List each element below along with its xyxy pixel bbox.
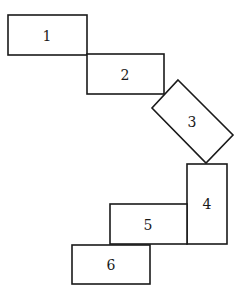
box-2: 2 — [87, 54, 164, 94]
box-3-label: 3 — [188, 114, 197, 130]
box-2-label: 2 — [121, 67, 130, 83]
box-1-label: 1 — [43, 28, 52, 44]
box-1: 1 — [8, 15, 87, 55]
box-5: 5 — [110, 204, 187, 244]
rectangle-chain-diagram: 1 2 3 4 5 6 — [0, 0, 244, 298]
box-4: 4 — [187, 164, 227, 244]
box-6: 6 — [72, 245, 150, 284]
box-5-label: 5 — [144, 217, 153, 233]
box-6-label: 6 — [107, 257, 116, 273]
box-4-label: 4 — [203, 196, 212, 212]
